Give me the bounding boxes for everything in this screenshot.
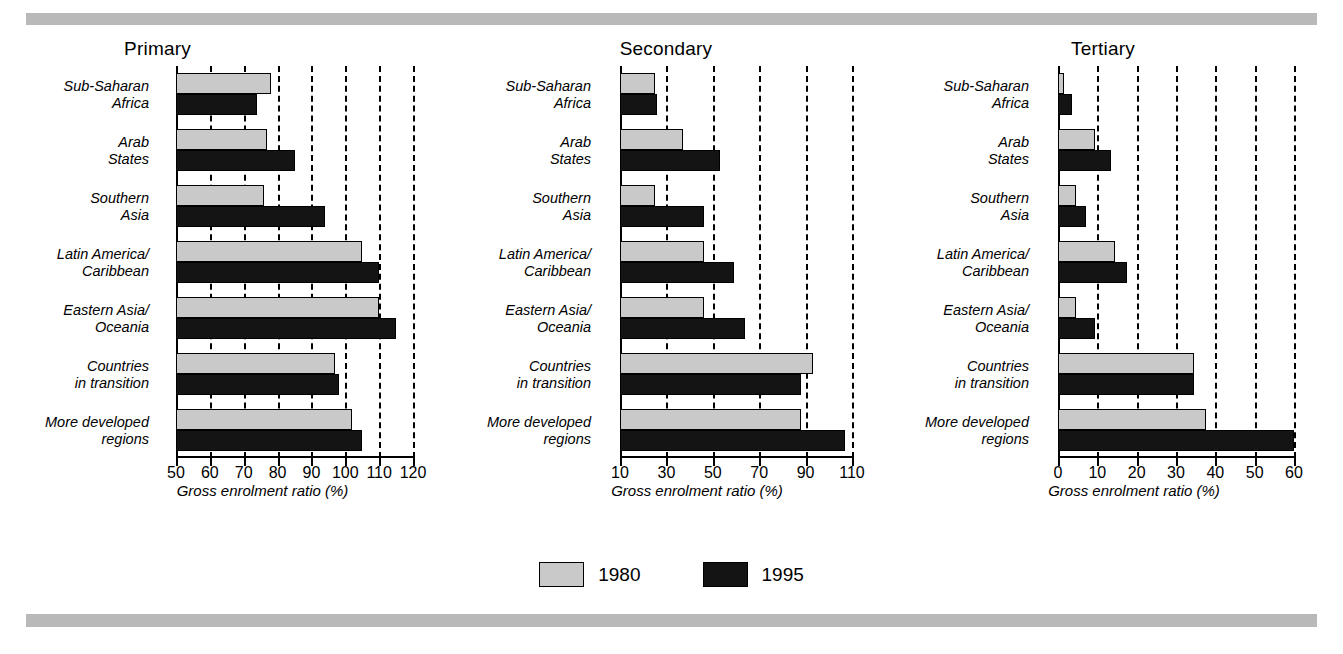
category-label-line: Caribbean [499,262,591,279]
x-axis-tick-label: 80 [269,464,287,482]
bar-1980 [620,409,801,430]
category-label: Eastern Asia/Oceania [505,302,591,335]
category-label-line: Caribbean [57,262,149,279]
gridline [759,66,761,458]
category-label-line: Countries [517,358,591,375]
x-axis-title-primary: Gross enrolment ratio (%) [0,482,465,499]
category-label-line: Southern [532,190,591,207]
legend-swatch-1995 [703,562,748,587]
bar-1995 [176,374,339,395]
gridline [379,66,381,458]
panel-title-tertiary: Tertiary [903,34,1343,62]
bar-1995 [176,94,257,115]
plot-area-tertiary: 0102030405060 [1058,66,1294,458]
gridline [1137,66,1139,458]
category-label: More developedregions [925,414,1029,447]
x-axis-tick-label: 50 [1246,464,1264,482]
category-label-line: Arab [108,134,149,151]
decorative-rule-top [26,13,1317,25]
bar-1980 [176,353,335,374]
category-label: Countriesin transition [517,358,591,391]
x-axis-tick-label: 30 [1167,464,1185,482]
category-labels-primary: Sub-SaharanAfricaArabStatesSouthernAsiaL… [10,66,155,534]
category-label: More developedregions [487,414,591,447]
category-label-line: More developed [487,414,591,431]
bar-1995 [1058,374,1194,395]
bar-1995 [1058,318,1095,339]
x-axis-tick-label: 90 [797,464,815,482]
bar-1980 [620,185,655,206]
bar-1980 [176,297,379,318]
x-axis-tick-label: 10 [1088,464,1106,482]
category-label-line: Countries [75,358,149,375]
plot-area-primary: 5060708090100110120 [176,66,413,458]
bar-1980 [1058,73,1064,94]
category-label-line: regions [487,430,591,447]
bar-1995 [1058,94,1072,115]
bar-1980 [620,297,704,318]
bar-1980 [176,241,362,262]
category-label-line: Eastern Asia/ [63,302,149,319]
category-label-line: in transition [517,374,591,391]
bar-1995 [176,262,379,283]
x-axis-tick-label: 0 [1054,464,1063,482]
category-label-line: Africa [506,94,591,111]
legend-entry-1980: 1980 [539,562,640,587]
category-label: SouthernAsia [532,190,591,223]
gridline [852,66,854,458]
category-label-line: Asia [90,206,149,223]
bar-1980 [620,73,655,94]
bar-1980 [620,353,813,374]
category-label: Countriesin transition [955,358,1029,391]
panel-title-secondary: Secondary [465,34,903,62]
category-label-line: Oceania [505,318,591,335]
chart-panel-secondary: Secondary Sub-SaharanAfricaArabStatesSou… [465,34,903,534]
category-label-line: Arab [550,134,591,151]
bar-1980 [1058,185,1076,206]
x-axis-tick-label: 100 [332,464,359,482]
bar-1995 [176,430,362,451]
bar-1995 [176,206,325,227]
bar-1980 [1058,129,1095,150]
category-label-line: Africa [64,94,149,111]
bar-1995 [620,374,801,395]
category-label: More developedregions [45,414,149,447]
bar-1995 [1058,150,1111,171]
category-label: Sub-SaharanAfrica [64,78,149,111]
category-label-line: Countries [955,358,1029,375]
category-label-line: Oceania [63,318,149,335]
x-axis-tick-label: 90 [303,464,321,482]
bar-1980 [176,409,352,430]
x-axis-line [620,456,852,458]
category-label: Latin America/Caribbean [499,246,591,279]
category-label-line: Southern [970,190,1029,207]
category-label-line: Southern [90,190,149,207]
x-axis-title-tertiary: Gross enrolment ratio (%) [903,482,1343,499]
x-axis-tick-label: 60 [1285,464,1303,482]
category-label: ArabStates [550,134,591,167]
x-axis-tick-label: 20 [1128,464,1146,482]
gridline [806,66,808,458]
bar-1980 [1058,241,1115,262]
category-label: SouthernAsia [970,190,1029,223]
chart-legend: 1980 1995 [0,562,1343,587]
category-label-line: Latin America/ [499,246,591,263]
bar-1995 [620,318,745,339]
category-label-line: Caribbean [937,262,1029,279]
category-label-line: regions [925,430,1029,447]
category-label-line: Sub-Saharan [506,78,591,95]
plot-area-secondary: 1030507090110 [620,66,852,458]
category-label-line: in transition [75,374,149,391]
category-label: Eastern Asia/Oceania [63,302,149,335]
bar-1980 [1058,297,1076,318]
chart-panels: Primary Sub-SaharanAfricaArabStatesSouth… [0,34,1343,534]
category-label-line: Arab [988,134,1029,151]
legend-entry-1995: 1995 [703,562,804,587]
x-axis-tick-label: 50 [704,464,722,482]
x-axis-tick-label: 110 [839,464,865,482]
x-axis-tick-label: 40 [1206,464,1224,482]
gridline [1255,66,1257,458]
category-label-line: Asia [970,206,1029,223]
bar-1980 [1058,409,1206,430]
x-axis-tick-label: 70 [235,464,253,482]
